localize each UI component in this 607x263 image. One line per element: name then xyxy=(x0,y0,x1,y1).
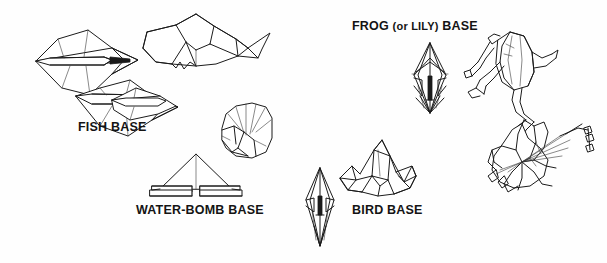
frog-base-diagram xyxy=(412,43,448,113)
caption-frog-base-word-base: BASE xyxy=(442,19,478,33)
water-bomb-balloon-figure xyxy=(222,103,272,158)
caption-frog-base-word-frog: FROG xyxy=(352,19,389,33)
water-bomb-base-diagram xyxy=(150,154,242,196)
caption-frog-base: FROG (or LILY) BASE xyxy=(352,19,478,33)
fish-model-figure xyxy=(143,14,270,69)
lily-model-figure xyxy=(488,120,594,192)
frog-model-figure xyxy=(464,32,558,146)
caption-fish-base: FISH BASE xyxy=(78,120,146,134)
crane-model-figure xyxy=(340,140,416,196)
caption-bird-base: BIRD BASE xyxy=(352,203,423,217)
caption-frog-base-word-orlily: (or LILY) xyxy=(393,20,439,32)
bird-base-diagram xyxy=(306,168,334,246)
caption-water-bomb-base: WATER-BOMB BASE xyxy=(136,203,264,217)
